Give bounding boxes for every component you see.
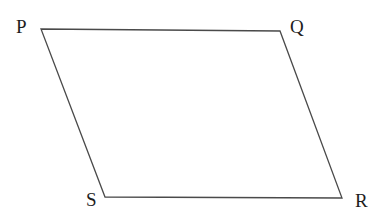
parallelogram-outline xyxy=(41,29,342,198)
vertex-label-p: P xyxy=(16,17,27,36)
figure-canvas: P Q R S xyxy=(0,0,381,222)
vertex-label-q: Q xyxy=(290,17,304,36)
vertex-label-r: R xyxy=(355,191,368,210)
vertex-label-s: S xyxy=(86,190,97,209)
parallelogram-diagram xyxy=(0,0,381,222)
